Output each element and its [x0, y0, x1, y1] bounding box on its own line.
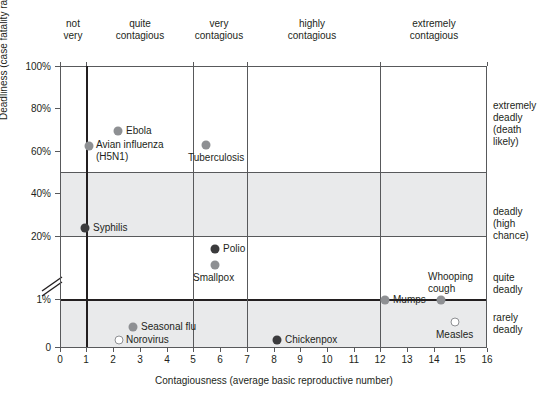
xtick-label-9: 9	[297, 354, 303, 365]
plot-area: 0 1 2 3 4 5 6 7 8 9 10 11 12 13 14 15 16…	[60, 66, 487, 348]
column-header-line1: highly	[288, 18, 336, 30]
xtick-14	[434, 348, 435, 352]
xtick-top-5	[193, 62, 194, 66]
ytick-60	[55, 151, 60, 152]
data-label-whooping-line2: cough	[428, 283, 473, 295]
column-header-line2: very	[64, 30, 83, 42]
column-header-highly-contagious: highly contagious	[288, 18, 336, 42]
row-label-line1: extremely	[493, 100, 536, 112]
ytick-label-100: 100%	[25, 61, 51, 72]
xtick-0	[60, 348, 61, 352]
xtick-15	[460, 348, 461, 352]
row-label-deadly: deadly (high chance)	[493, 206, 529, 242]
gridline-x1	[86, 66, 88, 348]
row-label-line1: deadly	[493, 206, 529, 218]
data-point-syphilis[interactable]	[81, 224, 90, 233]
data-label-mumps: Mumps	[393, 294, 426, 306]
data-point-chickenpox[interactable]	[273, 336, 282, 345]
xtick-label-3: 3	[137, 354, 143, 365]
data-point-mumps[interactable]	[381, 296, 390, 305]
ytick-80	[55, 108, 60, 109]
ytick-20	[55, 236, 60, 237]
xtick-top-12	[380, 62, 381, 66]
data-label-measles: Measles	[436, 329, 473, 341]
gridline-x5	[193, 66, 194, 348]
xtick-13	[407, 348, 408, 352]
row-label-line4: likely)	[493, 136, 536, 148]
right-axis-line	[486, 66, 487, 348]
y-axis-line	[60, 66, 61, 348]
data-label-avian-line1: Avian influenza	[96, 139, 164, 151]
xtick-16	[487, 348, 488, 352]
xtick-label-7: 7	[244, 354, 250, 365]
data-point-measles[interactable]	[451, 318, 460, 327]
column-header-line1: quite	[116, 18, 164, 30]
data-point-smallpox[interactable]	[211, 261, 220, 270]
xtick-top-1	[86, 62, 87, 66]
xtick-label-11: 11	[349, 354, 359, 365]
xtick-1	[86, 348, 87, 352]
xtick-top-0	[60, 62, 61, 66]
gridline-20pct	[60, 236, 487, 237]
gridline-100pct	[60, 66, 487, 67]
xtick-5	[193, 348, 194, 352]
data-point-polio[interactable]	[211, 245, 220, 254]
gridline-x7	[247, 66, 248, 348]
data-label-polio: Polio	[223, 243, 245, 255]
xtick-9	[300, 348, 301, 352]
data-point-avian-influenza[interactable]	[85, 142, 94, 151]
column-header-line2: contagious	[116, 30, 164, 42]
data-label-syphilis: Syphilis	[93, 222, 127, 234]
row-label-line2: deadly	[493, 284, 522, 296]
row-label-rarely-deadly: rarely deadly	[493, 312, 522, 336]
data-label-tuberculosis: Tuberculosis	[188, 152, 244, 164]
row-label-line3: chance)	[493, 230, 529, 242]
xtick-2	[113, 348, 114, 352]
xtick-7	[247, 348, 248, 352]
column-header-quite-contagious: quite contagious	[116, 18, 164, 42]
data-point-tuberculosis[interactable]	[202, 141, 211, 150]
xtick-11	[354, 348, 355, 352]
column-header-not-very: not very	[64, 18, 83, 42]
xtick-label-15: 15	[454, 354, 465, 365]
xtick-6	[220, 348, 221, 352]
y-axis-title: Deadliness (case fatality rate)	[0, 0, 9, 120]
ytick-label-1: 1%	[37, 294, 51, 305]
ytick-label-60: 60%	[31, 146, 51, 157]
xtick-label-2: 2	[110, 354, 116, 365]
xtick-label-8: 8	[271, 354, 277, 365]
data-label-norovirus: Norovirus	[126, 334, 169, 346]
ytick-0	[55, 347, 60, 348]
x-axis-title: Contagiousness (average basic reproducti…	[0, 375, 548, 386]
column-header-line1: very	[195, 18, 243, 30]
xtick-8	[274, 348, 275, 352]
data-label-ebola: Ebola	[126, 125, 152, 137]
xtick-10	[327, 348, 328, 352]
data-point-whooping-cough[interactable]	[437, 296, 446, 305]
row-label-line1: rarely	[493, 312, 522, 324]
data-label-seasonal-flu: Seasonal flu	[141, 321, 196, 333]
data-label-whooping-cough: Whooping cough	[428, 271, 473, 294]
row-label-line3: (death	[493, 124, 536, 136]
data-point-seasonal-flu[interactable]	[129, 323, 138, 332]
row-label-extremely-deadly: extremely deadly (death likely)	[493, 100, 536, 148]
ytick-1	[55, 299, 60, 300]
xtick-3	[140, 348, 141, 352]
xtick-label-13: 13	[401, 354, 412, 365]
xtick-top-7	[247, 62, 248, 66]
data-label-smallpox: Smallpox	[193, 272, 234, 284]
data-label-avian-influenza: Avian influenza (H5N1)	[96, 139, 164, 162]
data-point-ebola[interactable]	[114, 127, 123, 136]
ytick-label-20: 20%	[31, 231, 51, 242]
data-point-norovirus[interactable]	[115, 336, 124, 345]
xtick-top-16	[487, 62, 488, 66]
disease-scatter-chart: not very quite contagious very contagiou…	[0, 0, 548, 400]
ytick-40	[55, 193, 60, 194]
ytick-label-80: 80%	[31, 103, 51, 114]
xtick-label-4: 4	[164, 354, 170, 365]
ytick-100	[55, 66, 60, 67]
data-label-avian-line2: (H5N1)	[96, 151, 164, 163]
xtick-label-1: 1	[83, 354, 89, 365]
gridline-50pct	[60, 172, 487, 173]
xtick-label-10: 10	[321, 354, 332, 365]
